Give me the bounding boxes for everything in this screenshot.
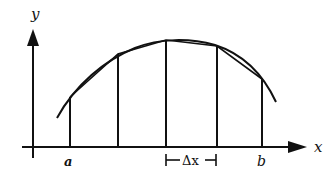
y-axis-arrow-icon: [27, 29, 39, 46]
y-axis-label: y: [30, 5, 40, 23]
delta-x-marker: Δx: [166, 153, 216, 168]
y-axis: [27, 29, 39, 158]
x-axis-arrow-icon: [288, 141, 307, 153]
arc-length-diagram: y x a b Δx: [0, 0, 336, 185]
delta-x-label: Δx: [182, 153, 199, 168]
x-axis-label: x: [314, 138, 323, 156]
interval-end-label: b: [257, 153, 266, 169]
interval-start-label: a: [64, 154, 72, 169]
x-axis: [22, 141, 307, 153]
ordinate-lines: [70, 40, 262, 147]
